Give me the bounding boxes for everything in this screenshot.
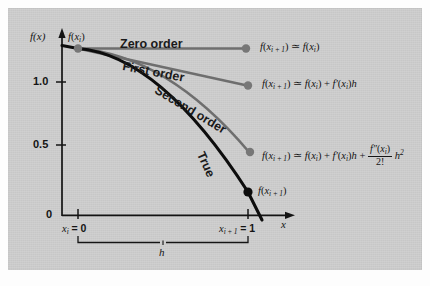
equation-first-order: f(xi + 1) ≃ f(xi) + f′(xi)h <box>262 79 357 91</box>
point-zero-order-end <box>242 44 250 52</box>
start-point-label: f(xi) <box>68 32 85 44</box>
y-axis-arrowhead <box>58 28 65 38</box>
y-tick-label-0: 0 <box>46 209 52 220</box>
x-axis-label: x <box>281 219 286 230</box>
x-tick-label-xi-plus-1: xi + 1 = 1 <box>219 223 255 236</box>
equation-second-order: f(xi + 1) ≃ f(xi) + f′(xi)h + f″(xi) 2! … <box>262 144 404 167</box>
y-tick-label-0-5: 0.5 <box>33 139 48 150</box>
x-axis-arrowhead <box>285 212 295 219</box>
point-first-order-end <box>244 81 252 89</box>
point-second-order-end <box>246 148 254 156</box>
x-tick-label-xi: xi = 0 <box>62 223 86 236</box>
point-true-end <box>243 187 252 196</box>
point-start-fxi <box>74 44 82 52</box>
curve-label-zero-order: Zero order <box>120 38 183 51</box>
y-tick-label-1: 1.0 <box>33 76 48 87</box>
figure-root: f(x) x 1.0 0.5 0 xi = 0 xi + 1 = 1 f(xi)… <box>0 0 430 286</box>
plot-canvas <box>0 0 430 286</box>
h-label: h <box>159 247 165 258</box>
y-axis-label: f(x) <box>30 31 45 42</box>
equation-zero-order: f(xi + 1) ≃ f(xi) <box>260 42 319 54</box>
end-point-label-true: f(xi + 1) <box>258 186 287 198</box>
